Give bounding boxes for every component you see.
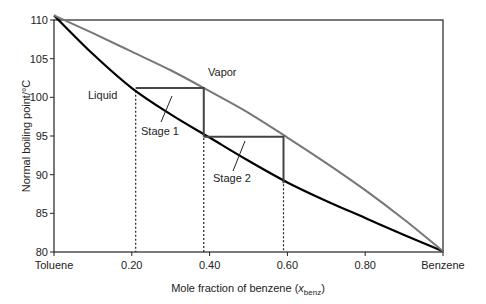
x-tick-label: 0.60 bbox=[277, 259, 298, 271]
x-tick-label: 0.80 bbox=[354, 259, 375, 271]
y-tick-label: 80 bbox=[36, 246, 48, 258]
liquid-curve bbox=[54, 15, 443, 251]
x-tick-label: Toluene bbox=[35, 259, 74, 271]
y-tick-label: 85 bbox=[36, 207, 48, 219]
x-axis-label-paren-close: ) bbox=[321, 282, 325, 294]
y-tick-label: 100 bbox=[30, 91, 48, 103]
y-axis-label: Normal boiling point/°C bbox=[20, 80, 32, 193]
x-axis-variable-subscript: benz bbox=[304, 288, 321, 297]
stage-1-label: Stage 1 bbox=[141, 125, 179, 137]
boiling-point-chart: 80859095100105110Toluene0.200.400.600.80… bbox=[0, 0, 486, 304]
x-tick-label: 0.20 bbox=[121, 259, 142, 271]
y-tick-label: 105 bbox=[30, 53, 48, 65]
x-axis-label: Mole fraction of benzene (xbenz) bbox=[171, 282, 325, 297]
vapor-label: Vapor bbox=[208, 66, 237, 78]
plot-area: 80859095100105110Toluene0.200.400.600.80… bbox=[30, 14, 465, 271]
vapor-curve bbox=[54, 15, 443, 251]
stage-2-leader-line bbox=[233, 141, 245, 171]
x-axis-label-text: Mole fraction of benzene bbox=[171, 282, 291, 294]
x-tick-label: Benzene bbox=[421, 259, 464, 271]
y-tick-label: 95 bbox=[36, 130, 48, 142]
y-tick-label: 90 bbox=[36, 169, 48, 181]
liquid-label: Liquid bbox=[88, 89, 117, 101]
stage-2-label: Stage 2 bbox=[213, 172, 251, 184]
x-tick-label: 0.40 bbox=[199, 259, 220, 271]
y-tick-label: 110 bbox=[30, 14, 48, 26]
